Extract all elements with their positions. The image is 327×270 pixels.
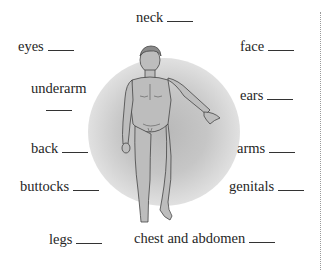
label-buttocks: buttocks <box>20 178 99 195</box>
answer-blank-chest-and-abdomen[interactable] <box>249 242 275 243</box>
label-ears: ears <box>240 87 293 104</box>
label-buttocks-text: buttocks <box>20 178 69 194</box>
label-legs: legs <box>49 231 102 248</box>
label-neck: neck <box>136 9 193 26</box>
label-legs-text: legs <box>49 231 72 247</box>
label-eyes-text: eyes <box>18 38 44 54</box>
answer-blank-back[interactable] <box>62 152 88 153</box>
label-ears-text: ears <box>240 87 263 103</box>
answer-blank-ears[interactable] <box>267 99 293 100</box>
label-chest-and-abdomen: chest and abdomen <box>134 230 275 247</box>
human-body-illustration-icon <box>88 40 238 230</box>
answer-blank-genitals[interactable] <box>278 190 304 191</box>
label-arms-text: arms <box>237 140 265 156</box>
answer-blank-buttocks[interactable] <box>73 190 99 191</box>
label-back: back <box>31 140 88 157</box>
label-eyes: eyes <box>18 38 74 55</box>
answer-blank-face[interactable] <box>268 50 294 51</box>
label-underarm: underarm <box>31 80 87 97</box>
label-arms: arms <box>237 140 295 157</box>
label-face: face <box>240 38 294 55</box>
answer-blank-neck[interactable] <box>167 21 193 22</box>
label-back-text: back <box>31 140 58 156</box>
answer-blank-underarm[interactable] <box>46 110 72 111</box>
label-chest-and-abdomen-text: chest and abdomen <box>134 230 245 246</box>
page-divider <box>320 12 321 270</box>
answer-blank-arms[interactable] <box>269 152 295 153</box>
answer-blank-eyes[interactable] <box>48 50 74 51</box>
label-face-text: face <box>240 38 264 54</box>
label-genitals-text: genitals <box>229 178 274 194</box>
label-underarm-text: underarm <box>31 80 87 96</box>
label-genitals: genitals <box>229 178 304 195</box>
answer-blank-legs[interactable] <box>76 243 102 244</box>
label-neck-text: neck <box>136 9 163 25</box>
